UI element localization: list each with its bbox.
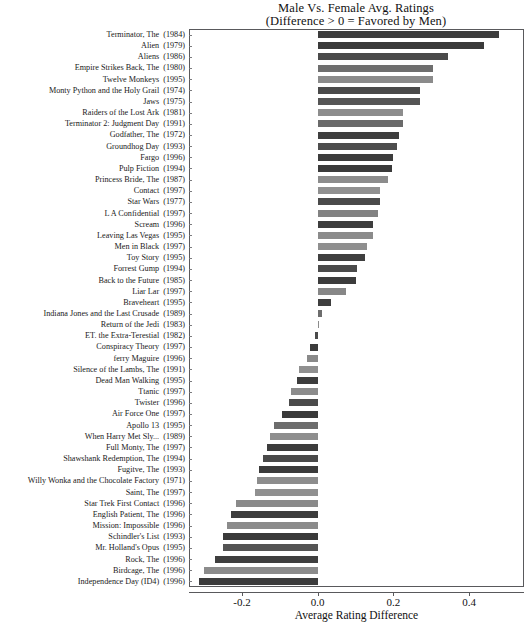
bar — [282, 411, 318, 418]
bar-row: Star Trek First Contact(1996) — [0, 498, 528, 509]
bar — [318, 198, 380, 205]
bar-row-year: (1996) — [163, 576, 185, 587]
bar-row-label: Schindler's List(1993) — [0, 531, 185, 542]
bar-row-year: (1991) — [163, 364, 185, 375]
y-axis-tick — [189, 157, 192, 158]
bar-row: Apollo 13(1995) — [0, 420, 528, 431]
y-axis-tick — [189, 381, 192, 382]
y-axis-tick — [189, 35, 192, 36]
bar — [231, 511, 318, 518]
y-axis-tick — [189, 514, 192, 515]
y-axis-tick — [189, 213, 192, 214]
y-axis-tick — [189, 369, 192, 370]
bar-row: Godfather, The(1972) — [0, 129, 528, 140]
bar — [318, 321, 319, 328]
bar-row: Saint, The(1997) — [0, 487, 528, 498]
bar-row-label: Raiders of the Lost Ark(1981) — [0, 107, 185, 118]
x-axis-tick-label: 0.2 — [373, 596, 413, 608]
bar — [318, 277, 356, 284]
bar-row-year: (1996) — [163, 219, 185, 230]
bar-row: Empire Strikes Back, The(1980) — [0, 62, 528, 73]
bar-row-label: Full Monty, The(1997) — [0, 442, 185, 453]
y-axis-tick — [189, 113, 192, 114]
y-axis-tick — [189, 224, 192, 225]
bar-row-year: (1971) — [163, 475, 185, 486]
bar-row: Scream(1996) — [0, 219, 528, 230]
bar-row-year: (1997) — [163, 341, 185, 352]
bar-rows: Terminator, The(1984)Alien(1979)Aliens(1… — [0, 0, 528, 627]
bar-row-label: Twister(1996) — [0, 397, 185, 408]
bar-row-label: Shawshank Redemption, The(1994) — [0, 453, 185, 464]
bar-row: Aliens(1986) — [0, 51, 528, 62]
bar-row-year: (1977) — [163, 196, 185, 207]
bar — [318, 42, 485, 49]
bar-row-year: (1994) — [163, 453, 185, 464]
bar-row-year: (1975) — [163, 96, 185, 107]
bar-row-year: (1979) — [163, 40, 185, 51]
bar-row-label: Contact(1997) — [0, 185, 185, 196]
y-axis-tick — [189, 57, 192, 58]
y-axis-tick — [189, 392, 192, 393]
x-axis-title: Average Rating Difference — [189, 609, 524, 621]
bar — [215, 556, 317, 563]
bar — [289, 399, 317, 406]
y-axis-tick — [189, 436, 192, 437]
y-axis-tick — [189, 459, 192, 460]
y-axis-tick — [189, 403, 192, 404]
bar — [318, 109, 403, 116]
y-axis-tick — [189, 325, 192, 326]
bar-row-year: (1974) — [163, 85, 185, 96]
bar — [318, 98, 420, 105]
bar-row: Terminator 2: Judgment Day(1991) — [0, 118, 528, 129]
bar-row-label: English Patient, The(1996) — [0, 509, 185, 520]
bar — [318, 288, 346, 295]
bar-row: L A Confidential(1997) — [0, 208, 528, 219]
bar-row-year: (1995) — [163, 74, 185, 85]
bar-row-label: Silence of the Lambs, The(1991) — [0, 364, 185, 375]
y-axis-tick — [189, 247, 192, 248]
y-axis-tick — [189, 124, 192, 125]
chart-container: Male Vs. Female Avg. Ratings (Difference… — [0, 0, 528, 627]
y-axis-tick — [189, 481, 192, 482]
y-axis-tick — [189, 90, 192, 91]
bar — [318, 254, 365, 261]
bar — [263, 455, 318, 462]
bar-row: Monty Python and the Holy Grail(1974) — [0, 85, 528, 96]
bar — [236, 500, 317, 507]
y-axis-tick — [189, 102, 192, 103]
bar-row: Dead Man Walking(1995) — [0, 375, 528, 386]
bar-row: Groundhog Day(1993) — [0, 141, 528, 152]
bar-row-year: (1995) — [163, 420, 185, 431]
bar-row-year: (1997) — [163, 286, 185, 297]
y-axis-tick — [189, 79, 192, 80]
bar — [315, 332, 318, 339]
bar-row: Pulp Fiction(1994) — [0, 163, 528, 174]
y-axis-tick — [189, 280, 192, 281]
bar — [318, 265, 358, 272]
bar-row: Birdcage, The(1996) — [0, 565, 528, 576]
y-axis-tick — [189, 180, 192, 181]
y-axis-tick — [189, 347, 192, 348]
bar — [318, 76, 433, 83]
bar-row-year: (1996) — [163, 509, 185, 520]
y-axis-tick — [189, 503, 192, 504]
bar-row-label: Apollo 13(1995) — [0, 420, 185, 431]
bar-row-label: Mr. Holland's Opus(1995) — [0, 542, 185, 553]
bar-row: Princess Bride, The(1987) — [0, 174, 528, 185]
bar — [318, 310, 323, 317]
bar-row-year: (1995) — [163, 375, 185, 386]
bar-row-label: Empire Strikes Back, The(1980) — [0, 62, 185, 73]
bar — [274, 422, 318, 429]
bar — [318, 120, 403, 127]
bar-row-label: Willy Wonka and the Chocolate Factory(19… — [0, 475, 185, 486]
bar-row-label: Terminator 2: Judgment Day(1991) — [0, 118, 185, 129]
bar-row-year: (1989) — [163, 431, 185, 442]
bar — [318, 221, 373, 228]
bar-row-label: Fargo(1996) — [0, 152, 185, 163]
bar-row-label: ET. the Extra-Terestial(1982) — [0, 330, 185, 341]
bar-row-label: Toy Story(1995) — [0, 252, 185, 263]
bar — [291, 388, 317, 395]
bar-row-year: (1996) — [163, 498, 185, 509]
bar-row-year: (1996) — [163, 353, 185, 364]
y-axis-tick — [189, 537, 192, 538]
